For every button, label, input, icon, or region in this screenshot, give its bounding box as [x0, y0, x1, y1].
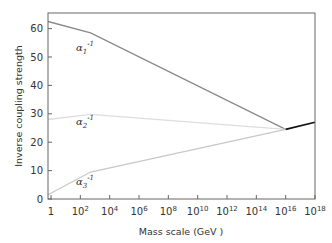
label-alpha1_inverse: α1-1 [76, 40, 94, 56]
y-tick-label: 30 [30, 108, 43, 119]
x-tick-label: 108 [160, 205, 177, 217]
x-axis: 110210410610810101012101410161018 [48, 195, 326, 217]
x-tick-label: 106 [130, 205, 148, 217]
x-tick-label: 104 [101, 205, 119, 217]
y-tick-label: 50 [30, 52, 43, 63]
y-tick-label: 20 [30, 137, 43, 148]
x-tick-label: 1 [48, 206, 54, 217]
label-alpha3_inverse: α3-1 [76, 174, 94, 190]
y-tick-label: 10 [30, 165, 43, 176]
y-axis-title: Inverse coupling strength [13, 45, 24, 166]
x-axis-title: Mass scale (GeV ) [139, 226, 224, 237]
x-tick-label: 102 [72, 205, 89, 217]
line-unified [286, 122, 315, 129]
chart: 0102030405060 11021041061081010101210141… [0, 0, 332, 243]
x-tick-label: 1018 [304, 205, 326, 217]
x-tick-label: 1016 [275, 205, 297, 217]
y-tick-label: 40 [30, 80, 43, 91]
line-alpha1_inverse [48, 22, 286, 130]
x-tick-label: 1014 [246, 205, 268, 217]
x-tick-label: 1010 [187, 205, 209, 217]
x-tick-label: 1012 [216, 205, 238, 217]
y-tick-label: 0 [37, 194, 43, 205]
y-axis: 0102030405060 [30, 23, 52, 204]
y-tick-label: 60 [30, 23, 43, 34]
label-alpha2_inverse: α2-1 [76, 114, 94, 130]
